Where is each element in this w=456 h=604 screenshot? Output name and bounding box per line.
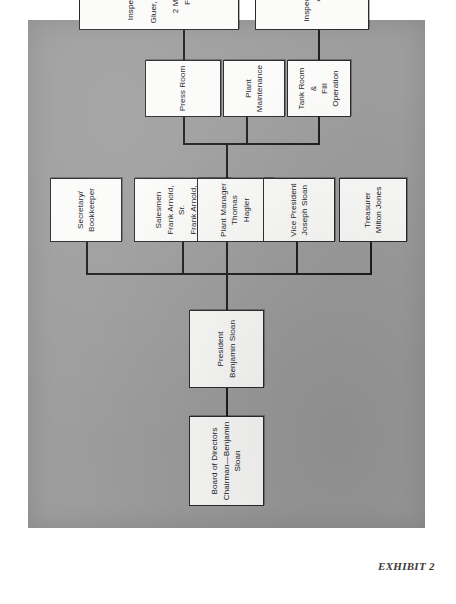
connector-tank-room-crew <box>318 30 320 60</box>
node-board-of-directors[interactable]: Board of Directors Chairman—Benjamin Slo… <box>189 416 264 506</box>
connector-president-treasurer <box>370 242 372 275</box>
node-plant-maintenance[interactable]: Plant Maintenance <box>223 60 285 117</box>
org-chart-rotation-wrapper: Board of Directors Chairman—Benjamin Slo… <box>31 24 423 524</box>
node-press-room-crew[interactable]: Inspector, Unscrambler, Boxer, Gluer, Co… <box>79 0 239 30</box>
node-secretary-label: Secretary/ Bookkeeper <box>74 185 97 235</box>
node-plant-maintenance-label: Plant Maintenance <box>242 62 265 115</box>
node-plant-manager-label: Plant Manager Thomas Hagler <box>217 179 251 241</box>
node-vice-president-label: Vice President Joseph Sloan <box>287 180 310 239</box>
connector-president-salesmen <box>182 242 184 275</box>
node-secretary-bookkeeper[interactable]: Secretary/ Bookkeeper <box>50 178 122 242</box>
node-tank-room-fill-operation[interactable]: Tank Room & Fill Operation <box>287 60 351 117</box>
node-treasurer[interactable]: Treasurer Milton Jones <box>339 178 407 242</box>
node-tank-room-label: Tank Room & Fill Operation <box>296 61 342 116</box>
org-chart: Board of Directors Chairman—Benjamin Slo… <box>31 24 423 524</box>
node-treasurer-label: Treasurer Milton Jones <box>361 184 384 237</box>
exhibit-caption: EXHIBIT 2 <box>378 560 435 572</box>
node-press-room[interactable]: Press Room <box>145 60 221 117</box>
connector-plant-manager-spine <box>183 143 320 145</box>
connector-president-vice-president <box>296 242 298 275</box>
connector-president-spine <box>86 273 372 275</box>
node-press-room-crew-label: Inspector, Unscrambler, Boxer, Gluer, Co… <box>124 0 193 29</box>
node-president-label: President Benjamin Sloan <box>215 317 238 381</box>
connector-plant-manager-maintenance <box>246 117 248 145</box>
node-press-room-label: Press Room <box>177 63 188 115</box>
connector-plant-manager-press-room <box>183 117 185 145</box>
connector-president-stub <box>226 274 228 310</box>
connector-president-secretary <box>86 242 88 275</box>
node-vice-president[interactable]: Vice President Joseph Sloan <box>263 178 335 242</box>
connector-board-president <box>226 388 228 416</box>
node-tank-room-crew-label: Inspector, 2 Pressmen & Apple Feeder <box>300 0 323 25</box>
scanned-page: Board of Directors Chairman—Benjamin Slo… <box>28 20 425 528</box>
connector-plant-manager-tank-room <box>318 117 320 145</box>
node-president[interactable]: President Benjamin Sloan <box>189 310 264 388</box>
node-board-label: Board of Directors Chairman—Benjamin Slo… <box>209 417 243 505</box>
node-tank-room-crew[interactable]: Inspector, 2 Pressmen & Apple Feeder <box>255 0 369 30</box>
node-plant-manager[interactable]: Plant Manager Thomas Hagler <box>197 178 273 242</box>
connector-press-room-crew <box>183 30 185 60</box>
connector-president-plant-manager <box>226 242 228 275</box>
connector-plant-manager-stub <box>226 144 228 178</box>
